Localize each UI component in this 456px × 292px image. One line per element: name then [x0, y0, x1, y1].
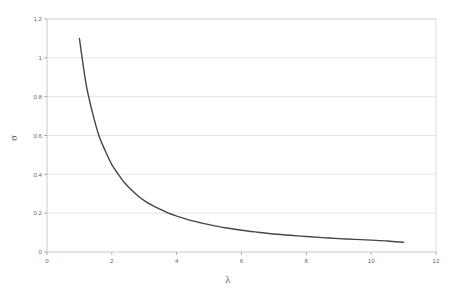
- x-tick-label: 2: [110, 257, 114, 264]
- y-tick-label: 0: [39, 248, 43, 255]
- y-axis-title: σ: [8, 135, 19, 141]
- chart-container: 024681012 00.20.40.60.811.2 λ σ: [0, 0, 456, 292]
- x-tick-label: 10: [368, 257, 375, 264]
- line-chart: 024681012 00.20.40.60.811.2 λ σ: [0, 0, 456, 292]
- x-tick-label: 6: [240, 257, 244, 264]
- x-tick-label: 8: [305, 257, 309, 264]
- x-tick-label: 0: [45, 257, 49, 264]
- y-tick-label: 0.6: [33, 132, 42, 139]
- chart-background: [0, 0, 456, 292]
- x-axis-title: λ: [226, 274, 231, 285]
- y-tick-label: 0.2: [33, 209, 42, 216]
- y-tick-label: 1: [39, 54, 43, 61]
- y-tick-label: 1.2: [33, 15, 42, 22]
- y-tick-label: 0.4: [33, 171, 42, 178]
- x-tick-label: 12: [433, 257, 440, 264]
- y-tick-label: 0.8: [33, 93, 42, 100]
- x-tick-label: 4: [175, 257, 179, 264]
